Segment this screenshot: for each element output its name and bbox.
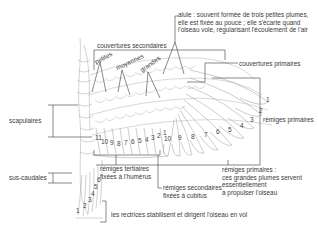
label-alule: alule : souvent formée de trois petites … <box>178 11 308 34</box>
remiges-secondaires-line-1: rémiges secondaires <box>163 184 222 192</box>
remiges-tertiaires-line-2: fixées à l'humérus <box>100 173 151 181</box>
label-remiges-primaires: rémiges primaires <box>263 116 314 124</box>
svg-text:10: 10 <box>164 135 172 142</box>
svg-text:3: 3 <box>250 116 254 123</box>
svg-text:9: 9 <box>110 139 114 146</box>
svg-text:2: 2 <box>259 107 263 114</box>
svg-text:2: 2 <box>83 202 87 209</box>
svg-text:1: 1 <box>76 207 80 214</box>
wing-coverts <box>88 58 272 135</box>
svg-text:6: 6 <box>216 128 220 135</box>
svg-text:7: 7 <box>124 139 128 146</box>
remiges-primaires-desc-line-1: rémiges primaires : <box>222 166 302 174</box>
svg-text:1: 1 <box>266 96 270 103</box>
label-sus-caudales: sus-caudales <box>9 174 47 182</box>
alule-line-1: alule : souvent formée de trois petites … <box>178 11 308 19</box>
label-couvertures-primaires: couvertures primaires <box>239 60 300 68</box>
svg-text:4: 4 <box>240 122 244 129</box>
remiges-primaires-desc-line-3: essentiellement <box>222 181 302 189</box>
remiges-secondaires-line-2: fixées à cubitus <box>163 192 222 200</box>
svg-text:3: 3 <box>88 196 92 203</box>
label-remiges-tertiaires: rémiges tertiaires fixées à l'humérus <box>100 165 151 180</box>
svg-text:8: 8 <box>191 133 195 140</box>
svg-text:3: 3 <box>151 134 155 141</box>
remiges-primaires-desc-line-4: à propulser l'oiseau <box>222 189 302 197</box>
svg-text:2: 2 <box>157 132 161 139</box>
bird-body <box>77 38 95 215</box>
remiges-tertiaires-line-1: rémiges tertiaires <box>100 165 151 173</box>
svg-text:10: 10 <box>101 138 109 145</box>
svg-text:4: 4 <box>145 136 149 143</box>
svg-text:9: 9 <box>178 134 182 141</box>
label-remiges-secondaires: rémiges secondaires fixées à cubitus <box>163 184 222 199</box>
label-remiges-primaires-desc: rémiges primaires : ces grandes plumes s… <box>222 166 302 196</box>
svg-text:7: 7 <box>204 131 208 138</box>
svg-text:6: 6 <box>131 138 135 145</box>
remiges-primaires-desc-line-2: ces grandes plumes servent <box>222 174 302 182</box>
label-rectrices: les rectrices stabilisent et dirigent l'… <box>111 211 247 219</box>
label-couvertures-secondaires: couvertures secondaires <box>97 42 167 50</box>
alule-line-3: l'oiseau vole, régularisant l'écoulement… <box>178 26 308 34</box>
svg-text:4: 4 <box>91 190 95 197</box>
svg-text:5: 5 <box>138 137 142 144</box>
svg-text:1: 1 <box>163 129 167 136</box>
primary-numbers: 1 2 3 4 5 6 7 8 9 10 <box>164 96 270 142</box>
svg-text:5: 5 <box>228 126 232 133</box>
alule-line-2: elle est fixée au pouce ; elle s'écarte … <box>178 19 308 27</box>
svg-text:5: 5 <box>94 183 98 190</box>
label-scapulaires: scapulaires <box>9 117 41 125</box>
primary-feathers <box>164 70 269 156</box>
svg-text:8: 8 <box>117 140 121 147</box>
